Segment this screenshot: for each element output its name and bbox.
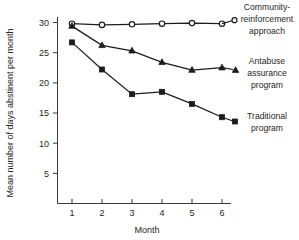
y-tick-label-20: 20 [39, 78, 49, 88]
data-point-antabuse-m6 [219, 64, 225, 70]
data-point-community-m2 [99, 22, 104, 27]
y-tick-label-25: 25 [39, 48, 49, 58]
x-tick-label-5: 5 [189, 208, 194, 218]
annotation-community-line3: approach [249, 26, 285, 36]
data-point-traditional-m1 [70, 40, 75, 45]
y-tick-label-10: 10 [39, 139, 49, 149]
x-axis-title: Month [134, 225, 159, 235]
data-point-traditional-m3 [130, 92, 135, 97]
annotation-traditional-program: Traditional program [222, 111, 287, 133]
annotation-traditional-line1: Traditional [247, 111, 287, 121]
line-chart-canvas: 30 25 20 15 10 5 1 2 3 4 5 6 Month Mean … [0, 0, 299, 240]
annotation-antabuse-line1: Antabuse [249, 56, 286, 66]
data-point-antabuse-m2 [99, 42, 105, 48]
x-tick-label-4: 4 [159, 208, 164, 218]
x-tick-label-2: 2 [99, 208, 104, 218]
data-point-traditional-m2 [100, 67, 105, 72]
series-antabuse-assurance [69, 23, 225, 73]
legend-marker-traditional-square [233, 119, 238, 124]
legend-marker-antabuse-triangle [232, 67, 238, 73]
series-line-community [72, 23, 222, 25]
annotation-traditional-line2: program [251, 123, 283, 133]
data-point-community-m3 [129, 22, 134, 27]
annotation-antabuse-assurance: Antabuse assurance program [222, 56, 287, 90]
axes-group [53, 17, 231, 204]
chart-figure: 30 25 20 15 10 5 1 2 3 4 5 6 Month Mean … [0, 0, 299, 240]
data-point-community-m5 [189, 20, 194, 25]
series-traditional-program [70, 40, 225, 120]
annotation-antabuse-line2: assurance [247, 68, 287, 78]
data-point-community-m4 [159, 21, 164, 26]
annotation-community-line1: Community- [244, 2, 290, 12]
annotation-antabuse-line3: program [251, 80, 283, 90]
y-tick-label-30: 30 [39, 18, 49, 28]
data-point-traditional-m4 [160, 89, 165, 94]
x-tick-labels: 1 2 3 4 5 6 [69, 208, 224, 218]
legend-marker-community-open-circle [232, 18, 237, 23]
x-tick-label-6: 6 [219, 208, 224, 218]
x-tick-label-1: 1 [69, 208, 74, 218]
annotation-community-line2: reinforcement [241, 14, 294, 24]
y-tick-label-5: 5 [44, 169, 49, 179]
x-tick-label-3: 3 [129, 208, 134, 218]
series-line-traditional [72, 42, 222, 117]
y-tick-labels: 30 25 20 15 10 5 [39, 18, 49, 179]
annotation-community-reinforcement: Community- reinforcement approach [222, 2, 294, 36]
data-point-traditional-m5 [190, 101, 195, 106]
series-community-reinforcement [69, 20, 224, 27]
y-axis-title: Mean number of days abstinent per month [5, 28, 15, 197]
y-tick-label-15: 15 [39, 108, 49, 118]
